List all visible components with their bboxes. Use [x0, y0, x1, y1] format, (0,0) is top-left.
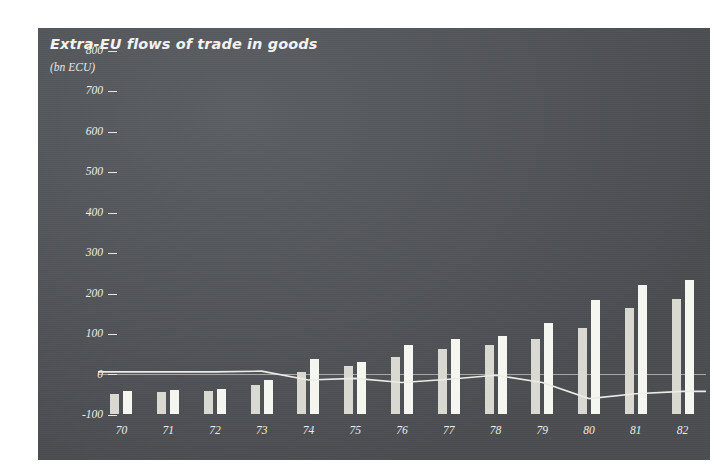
trade-balance-line	[98, 50, 706, 414]
x-axis: 70717273747576777879808182	[98, 424, 706, 446]
y-axis-tick-label: 100	[86, 327, 103, 339]
y-axis-tick: 600	[86, 125, 117, 137]
balance-line-path	[98, 371, 706, 399]
y-axis-tick-label: 700	[86, 84, 103, 96]
y-axis-tick-label: -100	[82, 408, 103, 420]
chart-title: Extra-EU flows of trade in goods	[50, 36, 318, 52]
y-axis-tick-label: 400	[86, 206, 103, 218]
y-axis-tick-mark	[108, 415, 117, 416]
plot-area	[98, 50, 706, 414]
y-axis-tick-label: 600	[86, 125, 103, 137]
y-axis-tick-mark	[108, 172, 117, 173]
y-axis-tick-mark	[108, 132, 117, 133]
y-axis-tick-mark	[108, 334, 117, 335]
y-axis-tick: 300	[86, 246, 117, 258]
y-axis-tick: 200	[86, 287, 117, 299]
y-axis-tick-mark	[108, 294, 117, 295]
y-axis-tick-mark	[108, 374, 117, 375]
y-axis-tick-label: 300	[86, 246, 103, 258]
y-axis-tick-mark	[108, 253, 117, 254]
y-axis-tick: 0	[97, 368, 117, 380]
x-axis-tick-label: 77	[425, 424, 472, 446]
x-axis-tick-label: 76	[379, 424, 426, 446]
y-axis-tick-mark	[108, 91, 117, 92]
x-axis-tick-label: 72	[192, 424, 239, 446]
y-axis-tick: 500	[86, 165, 117, 177]
x-axis-tick-label: 74	[285, 424, 332, 446]
y-axis-unit-label: (bn ECU)	[50, 61, 95, 73]
x-axis-tick-label: 71	[145, 424, 192, 446]
y-axis: 8007006005004003002001000-100	[38, 28, 123, 460]
chart-figure: Extra-EU flows of trade in goods (bn ECU…	[0, 0, 715, 474]
y-axis-tick-mark	[108, 213, 117, 214]
x-axis-tick-label: 70	[98, 424, 145, 446]
x-axis-tick-label: 80	[566, 424, 613, 446]
x-axis-tick-label: 73	[238, 424, 285, 446]
y-axis-tick: 100	[86, 327, 117, 339]
x-axis-tick-label: 82	[659, 424, 706, 446]
x-axis-tick-label: 78	[472, 424, 519, 446]
x-axis-tick-label: 75	[332, 424, 379, 446]
y-axis-tick-label: 200	[86, 287, 103, 299]
y-axis-tick-label: 0	[97, 368, 103, 380]
y-axis-tick: -100	[82, 408, 117, 420]
y-axis-tick: 700	[86, 84, 117, 96]
chart-panel: Extra-EU flows of trade in goods (bn ECU…	[38, 28, 710, 460]
y-axis-tick: 400	[86, 206, 117, 218]
x-axis-tick-label: 79	[519, 424, 566, 446]
y-axis-tick-label: 500	[86, 165, 103, 177]
x-axis-tick-label: 81	[612, 424, 659, 446]
